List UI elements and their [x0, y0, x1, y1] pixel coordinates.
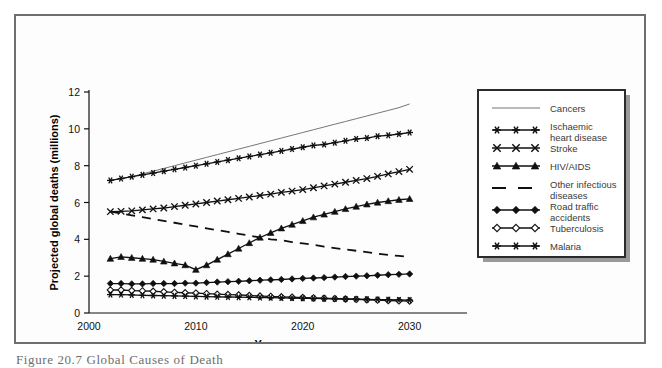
data-point-diamond-filled	[257, 277, 263, 283]
data-point-asterisk	[128, 174, 135, 180]
legend-label: diseases	[550, 190, 588, 201]
data-point-asterisk	[225, 157, 232, 163]
data-point-diamond-filled	[364, 273, 370, 279]
data-point-diamond-filled	[396, 271, 402, 277]
y-tick-label: 6	[74, 197, 80, 209]
data-point-asterisk	[310, 142, 317, 148]
y-tick-label: 4	[74, 233, 80, 245]
data-point-asterisk	[246, 154, 253, 160]
y-tick-label: 0	[74, 307, 80, 319]
data-point-asterisk	[107, 177, 114, 183]
data-point-triangle	[214, 256, 221, 262]
data-point-diamond-filled	[203, 279, 209, 285]
y-axis-title: Projected global deaths (millions)	[48, 114, 60, 290]
data-point-diamond-filled	[353, 273, 359, 279]
data-point-diamond-filled	[193, 280, 199, 286]
legend-label: HIV/AIDS	[550, 161, 591, 172]
legend-label: Other infectious	[550, 179, 617, 190]
legend-label: Ischaemic	[550, 121, 593, 132]
legend-box: CancersIschaemicheart diseaseStrokeHIV/A…	[478, 90, 630, 262]
legend-label: Tuberculosis	[550, 223, 604, 234]
figure-container: 0246810122000201020202030YearProjected g…	[0, 0, 662, 368]
x-tick-label: 2030	[398, 320, 422, 332]
data-point-diamond-filled	[182, 280, 188, 286]
data-point-diamond-filled	[342, 273, 348, 279]
data-point-triangle	[235, 245, 242, 251]
data-point-diamond-filled	[171, 280, 177, 286]
data-point-diamond-open	[107, 287, 113, 293]
data-point-diamond-filled	[406, 271, 412, 277]
data-point-asterisk	[289, 146, 296, 152]
figure-frame: 0246810122000201020202030YearProjected g…	[14, 14, 646, 344]
data-point-diamond-filled	[374, 272, 380, 278]
x-tick-label: 2020	[291, 320, 315, 332]
data-point-diamond-filled	[289, 276, 295, 282]
legend-label: Cancers	[550, 103, 586, 114]
legend-label: accidents	[550, 212, 590, 223]
data-point-asterisk	[267, 150, 274, 156]
series-line	[110, 104, 409, 180]
data-point-diamond-filled	[150, 280, 156, 286]
series-hiv-aids	[107, 196, 413, 273]
data-point-asterisk	[299, 144, 306, 150]
data-point-asterisk	[374, 133, 381, 139]
data-point-diamond-open	[139, 288, 145, 294]
data-point-asterisk	[203, 161, 210, 167]
x-tick-label: 2010	[184, 320, 208, 332]
data-point-diamond-filled	[246, 278, 252, 284]
series-road-traffic-accidents	[107, 271, 413, 287]
data-point-triangle	[203, 262, 210, 268]
data-point-asterisk	[139, 172, 146, 178]
series-cancers	[110, 104, 409, 180]
data-point-diamond-filled	[129, 281, 135, 287]
data-point-asterisk	[171, 166, 178, 172]
data-point-asterisk	[118, 176, 125, 182]
data-point-asterisk	[214, 159, 221, 165]
data-point-asterisk	[353, 136, 360, 142]
data-point-diamond-filled	[161, 280, 167, 286]
data-point-diamond-filled	[225, 278, 231, 284]
data-point-asterisk	[182, 165, 189, 171]
data-point-diamond-open	[118, 287, 124, 293]
series-layer	[107, 104, 413, 304]
series-ischaemic-heart-disease	[107, 130, 413, 184]
legend-label: Stroke	[550, 143, 577, 154]
data-point-diamond-filled	[235, 278, 241, 284]
projected-global-deaths-chart: 0246810122000201020202030YearProjected g…	[16, 16, 644, 342]
data-point-diamond-open	[150, 288, 156, 294]
data-point-asterisk	[385, 132, 392, 138]
x-tick-label: 2000	[77, 320, 101, 332]
data-point-asterisk	[342, 138, 349, 144]
data-point-asterisk	[257, 152, 264, 158]
data-point-diamond-filled	[118, 280, 124, 286]
data-point-diamond-filled	[321, 274, 327, 280]
data-point-diamond-filled	[332, 274, 338, 280]
legend-label: heart disease	[550, 132, 607, 143]
y-tick-label: 8	[74, 160, 80, 172]
data-point-asterisk	[278, 148, 285, 154]
data-point-diamond-filled	[278, 276, 284, 282]
legend-label: Malaria	[550, 241, 582, 252]
y-tick-label: 2	[74, 270, 80, 282]
data-point-diamond-filled	[267, 277, 273, 283]
data-point-diamond-filled	[310, 275, 316, 281]
y-tick-label: 10	[68, 123, 80, 135]
data-point-triangle	[225, 251, 232, 257]
y-tick-label: 12	[68, 86, 80, 98]
data-point-asterisk	[192, 163, 199, 169]
data-point-asterisk	[363, 135, 370, 141]
data-point-diamond-filled	[385, 271, 391, 277]
data-point-asterisk	[321, 142, 328, 148]
x-axis-title: Year	[254, 338, 278, 342]
data-point-diamond-open	[129, 287, 135, 293]
data-point-diamond-open	[161, 289, 167, 295]
figure-caption: Figure 20.7 Global Causes of Death	[16, 352, 646, 368]
data-point-diamond-filled	[214, 279, 220, 285]
data-point-asterisk	[406, 130, 413, 136]
data-point-diamond-filled	[139, 281, 145, 287]
data-point-diamond-filled	[107, 280, 113, 286]
data-point-diamond-filled	[300, 275, 306, 281]
legend-label: Road traffic	[550, 201, 599, 212]
data-point-triangle	[246, 240, 253, 246]
axes-layer: 0246810122000201020202030YearProjected g…	[48, 86, 467, 342]
